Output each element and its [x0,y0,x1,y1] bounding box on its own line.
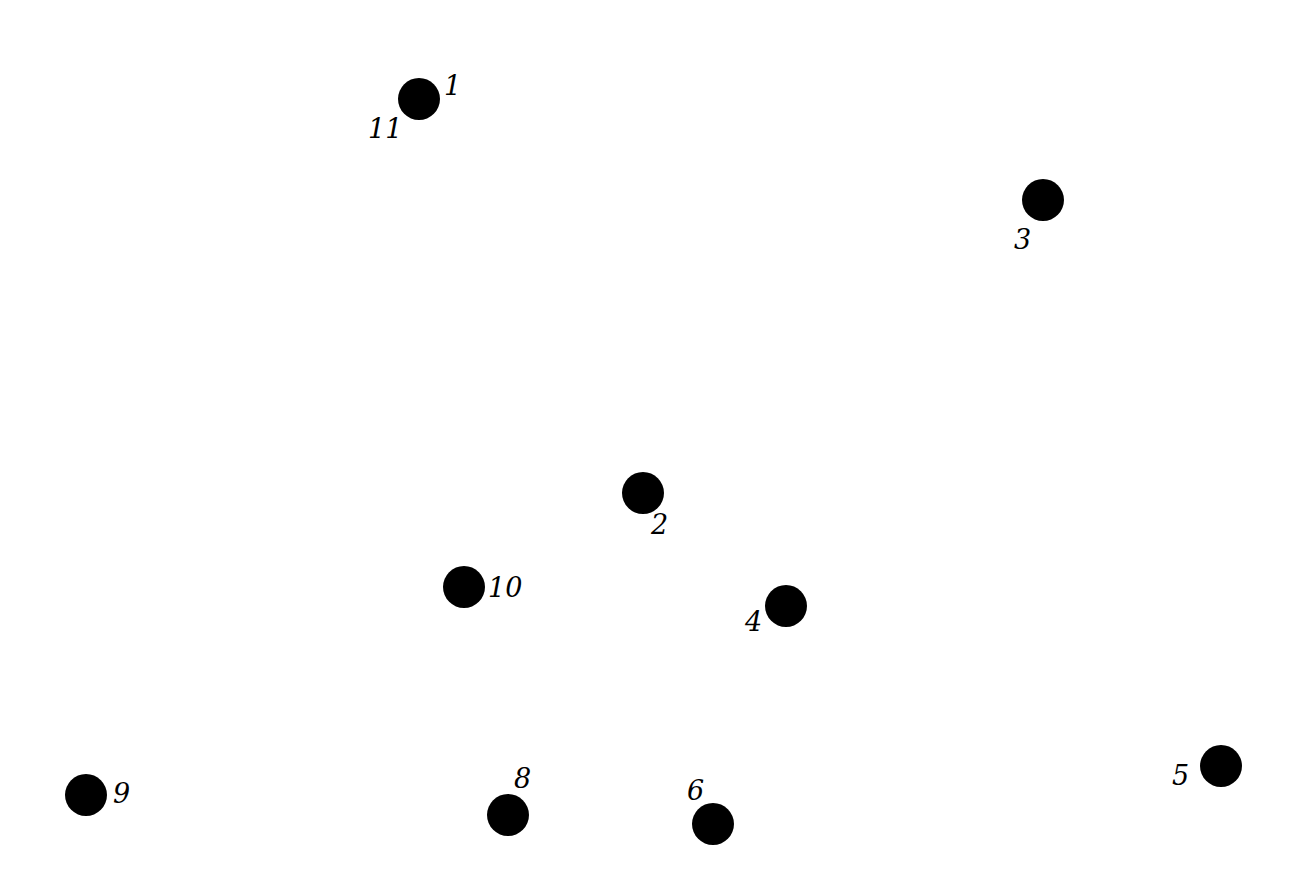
dot-2 [622,472,664,514]
dot-9 [65,774,107,816]
dot-label-5: 5 [1172,762,1189,789]
dot-label-10: 10 [488,574,522,601]
dot-label-1: 1 [444,72,461,99]
dot-3 [1022,179,1064,221]
dot-diagram-canvas: 111234568910 [0,0,1309,887]
dot-label-8: 8 [514,765,531,792]
dot-label-3: 3 [1014,226,1031,253]
dot-label-9: 9 [113,780,130,807]
dot-6 [692,803,734,845]
dot-4 [765,585,807,627]
dot-label-11: 11 [368,115,402,142]
dot-label-6: 6 [687,777,704,804]
dot-5 [1200,745,1242,787]
dot-8 [487,794,529,836]
dot-10 [443,566,485,608]
dot-label-2: 2 [651,511,668,538]
dot-label-4: 4 [745,608,762,635]
dot-1 [398,78,440,120]
